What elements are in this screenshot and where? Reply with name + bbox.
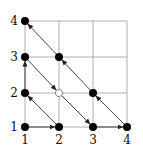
lattice-point — [89, 123, 97, 131]
path-arrow — [28, 96, 56, 124]
y-axis-labels: 1234 — [10, 14, 18, 134]
x-tick-label: 4 — [123, 133, 131, 147]
path-arrow — [28, 24, 56, 54]
lattice-point — [89, 89, 97, 97]
x-tick-label: 2 — [55, 133, 63, 147]
lattice-point — [21, 53, 29, 61]
lattice-point — [21, 17, 29, 25]
path-arrow — [28, 60, 56, 90]
y-tick-label: 3 — [10, 50, 18, 64]
enumeration-diagram: 1234 1234 — [0, 0, 143, 161]
x-tick-label: 3 — [89, 133, 97, 147]
lattice-point — [21, 89, 29, 97]
x-axis-labels: 1234 — [21, 133, 131, 147]
y-tick-label: 2 — [10, 86, 18, 100]
path-arrow — [62, 60, 90, 90]
path-arrows — [25, 24, 124, 127]
y-tick-label: 4 — [10, 14, 18, 28]
path-arrow — [96, 96, 124, 124]
lattice-point — [55, 123, 63, 131]
lattice-point — [123, 123, 131, 131]
y-tick-label: 1 — [10, 120, 18, 134]
path-arrow — [62, 96, 90, 124]
x-tick-label: 1 — [21, 133, 29, 147]
lattice-point — [21, 123, 29, 131]
lattice-point — [55, 53, 63, 61]
lattice-point-hollow — [55, 89, 62, 96]
